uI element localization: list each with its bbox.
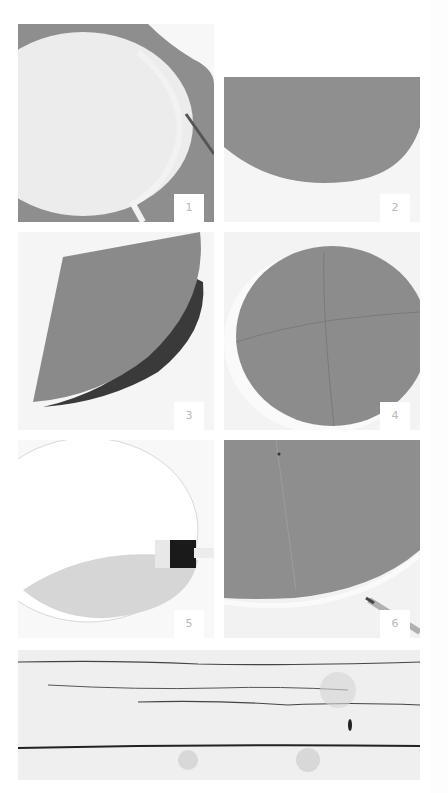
step-2-photo: 2 (224, 77, 420, 222)
step-6-photo: 6 (224, 440, 420, 638)
step-number-badge: 3 (174, 402, 204, 430)
wood-grain-illustration (18, 650, 420, 780)
glue-brush-illustration (18, 440, 214, 638)
step-3-photo: 3 (18, 232, 214, 430)
folded-circle-illustration (224, 232, 420, 430)
folded-paper-illustration (18, 232, 214, 430)
step-number-badge: 5 (174, 610, 204, 638)
step-number-badge: 2 (380, 194, 410, 222)
step-1-photo: 1 (18, 24, 214, 222)
right-margin-strip (430, 0, 448, 793)
cut-circle-illustration (18, 24, 214, 222)
step-number-badge: 4 (380, 402, 410, 430)
step-number-badge: 6 (380, 610, 410, 638)
step-4-photo: 4 (224, 232, 420, 430)
step-5-photo: 5 (18, 440, 214, 638)
pencil-mark-illustration (224, 440, 420, 638)
step-number-badge: 1 (174, 194, 204, 222)
wood-texture-banner (18, 650, 420, 780)
